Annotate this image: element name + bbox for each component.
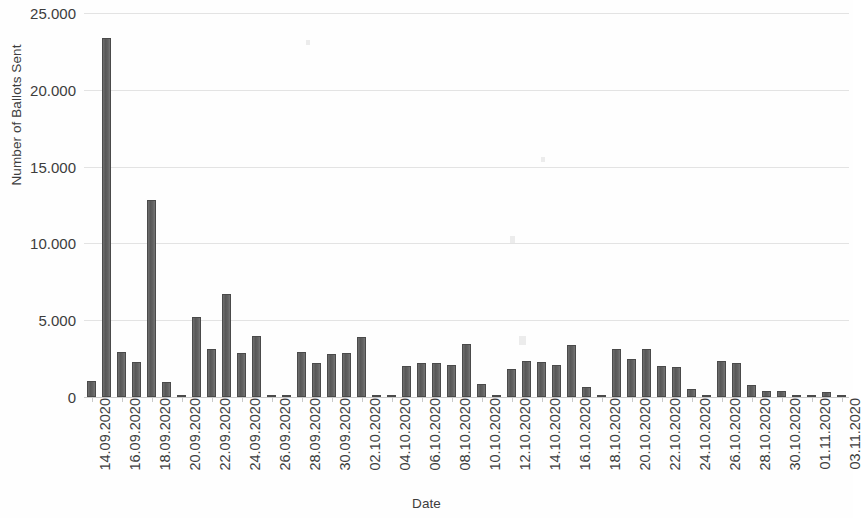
x-axis-tick-label: 12.10.2020 bbox=[518, 398, 532, 490]
bar bbox=[642, 349, 651, 397]
bar bbox=[402, 366, 411, 397]
x-axis-tick-label: 18.10.2020 bbox=[608, 398, 622, 490]
bar bbox=[147, 200, 156, 397]
y-axis-tick-label: 25.000 bbox=[10, 6, 76, 21]
x-axis-tick-label: 22.09.2020 bbox=[218, 398, 232, 490]
bar bbox=[207, 349, 216, 397]
bar bbox=[87, 381, 96, 397]
x-axis-tick-label: 22.10.2020 bbox=[668, 398, 682, 490]
y-axis-tick-label: 5.000 bbox=[10, 313, 76, 328]
x-axis-tick-label: 28.10.2020 bbox=[758, 398, 772, 490]
x-axis-tick-label: 16.10.2020 bbox=[578, 398, 592, 490]
bar bbox=[477, 384, 486, 397]
x-axis-tick-label: 28.09.2020 bbox=[308, 398, 322, 490]
bar bbox=[237, 353, 246, 397]
x-axis-tick-label: 30.09.2020 bbox=[338, 398, 352, 490]
bar bbox=[612, 349, 621, 397]
bar bbox=[117, 352, 126, 397]
bar bbox=[567, 345, 576, 397]
y-axis-tick-label: 10.000 bbox=[10, 236, 76, 251]
x-axis-tick-label: 04.10.2020 bbox=[398, 398, 412, 490]
x-axis-tick-label: 16.09.2020 bbox=[128, 398, 142, 490]
x-axis-tick-label: 26.09.2020 bbox=[278, 398, 292, 490]
x-axis-tick-label: 03.11.2020 bbox=[848, 398, 862, 490]
x-axis-tick-label: 24.09.2020 bbox=[248, 398, 262, 490]
bar bbox=[327, 354, 336, 397]
x-axis-tick-label: 14.09.2020 bbox=[98, 398, 112, 490]
x-axis-tick-label: 20.10.2020 bbox=[638, 398, 652, 490]
y-axis-tick-label: 15.000 bbox=[10, 160, 76, 175]
bar bbox=[297, 352, 306, 397]
bar bbox=[522, 361, 531, 397]
bar bbox=[222, 294, 231, 397]
x-axis-title: Date bbox=[0, 496, 853, 511]
x-axis-tick-label: 18.09.2020 bbox=[158, 398, 172, 490]
bar bbox=[417, 363, 426, 397]
x-axis-tick-label: 08.10.2020 bbox=[458, 398, 472, 490]
x-axis-tick-labels: 14.09.202016.09.202018.09.202020.09.2020… bbox=[0, 398, 853, 488]
x-axis-tick-label: 10.10.2020 bbox=[488, 398, 502, 490]
gridline bbox=[84, 13, 849, 14]
bar bbox=[357, 337, 366, 397]
gridline bbox=[84, 167, 849, 168]
bar bbox=[672, 367, 681, 397]
x-axis-tick-label: 14.10.2020 bbox=[548, 398, 562, 490]
x-axis-tick-label: 24.10.2020 bbox=[698, 398, 712, 490]
bar bbox=[717, 361, 726, 397]
bar bbox=[537, 362, 546, 397]
x-axis-tick-label: 01.11.2020 bbox=[818, 398, 832, 490]
bar bbox=[627, 359, 636, 397]
plot-area bbox=[84, 13, 849, 397]
y-axis-tick-label: 20.000 bbox=[10, 83, 76, 98]
bar bbox=[732, 363, 741, 397]
bar bbox=[102, 38, 111, 397]
bar bbox=[747, 385, 756, 397]
gridline bbox=[84, 90, 849, 91]
bar bbox=[552, 365, 561, 397]
bar bbox=[462, 344, 471, 397]
bar bbox=[432, 363, 441, 397]
bar bbox=[132, 362, 141, 397]
bar bbox=[312, 363, 321, 397]
gridline bbox=[84, 243, 849, 244]
x-axis-tick-label: 26.10.2020 bbox=[728, 398, 742, 490]
bar bbox=[507, 369, 516, 397]
x-axis-tick-label: 06.10.2020 bbox=[428, 398, 442, 490]
x-axis-tick-label: 02.10.2020 bbox=[368, 398, 382, 490]
bar bbox=[162, 382, 171, 397]
x-axis-tick-label: 20.09.2020 bbox=[188, 398, 202, 490]
bar bbox=[687, 389, 696, 397]
bar bbox=[582, 387, 591, 397]
bar bbox=[192, 317, 201, 397]
bar bbox=[342, 353, 351, 397]
bar bbox=[657, 366, 666, 397]
bar bbox=[447, 365, 456, 397]
x-axis-tick-label: 30.10.2020 bbox=[788, 398, 802, 490]
bar bbox=[252, 336, 261, 397]
